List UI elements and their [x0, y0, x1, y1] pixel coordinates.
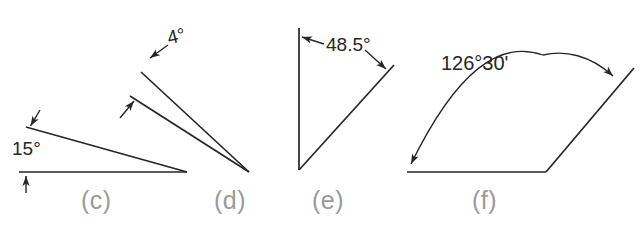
figure-label-e: (e) — [312, 186, 344, 215]
figure-label-c: (c) — [81, 186, 112, 215]
figure-label-f: (f) — [472, 186, 497, 215]
dimension-value-f: 126°30' — [441, 52, 508, 75]
leader-line-icon — [302, 37, 324, 44]
dimension-value-e: 48.5° — [326, 34, 371, 56]
arrowhead-icon — [120, 101, 134, 118]
figure-c-geometry — [19, 127, 187, 172]
dimension-value-c: 15° — [12, 138, 41, 160]
figure-c-inclined-line — [26, 127, 187, 172]
figure-d-geometry — [130, 72, 249, 172]
figure-d-upper-line — [141, 72, 249, 172]
drawing-sheet: 15° 4° 48.5° 126°30' (c) (d) (e) (f) — [0, 0, 641, 234]
figure-e-inclined-line — [299, 65, 394, 170]
figure-f-geometry — [407, 68, 634, 172]
figure-label-d: (d) — [214, 186, 246, 215]
arrowhead-icon — [31, 110, 41, 126]
leader-line-icon — [150, 45, 168, 58]
dimension-arc-icon — [543, 53, 613, 76]
figure-f-inclined-line — [546, 68, 634, 172]
figure-d-dimension-arrows — [120, 45, 168, 118]
